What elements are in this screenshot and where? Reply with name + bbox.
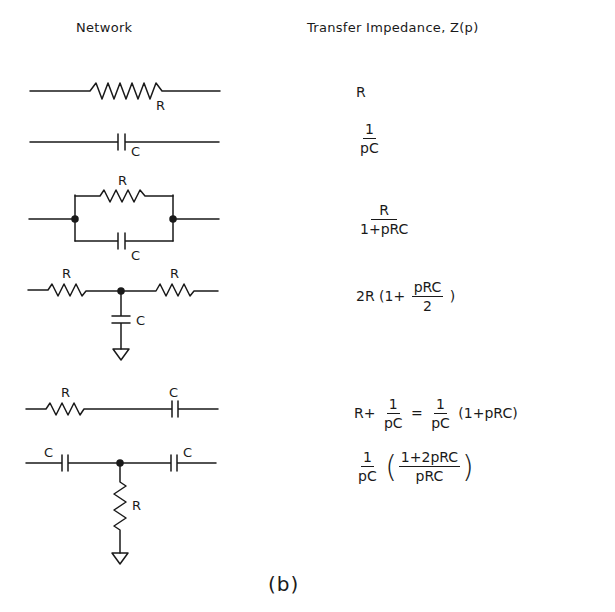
impedance-row-4: 2R (1+ pRC 2 ) bbox=[356, 280, 455, 313]
impedance-text: R bbox=[356, 84, 366, 100]
network-row-2-capacitor: C bbox=[30, 134, 219, 159]
resistor-label: R bbox=[132, 498, 141, 513]
denominator: pC bbox=[358, 139, 381, 155]
resistor-label: R bbox=[156, 98, 165, 113]
denominator: 1+pRC bbox=[358, 220, 410, 236]
denominator: pC bbox=[356, 467, 379, 483]
fraction: pRC 2 bbox=[412, 280, 444, 313]
network-row-3-parallel-rc: R C bbox=[29, 173, 219, 263]
network-diagrams: R C R C R R C R C C C R bbox=[0, 0, 615, 612]
numerator: pRC bbox=[412, 280, 444, 297]
capacitor-label-left: C bbox=[44, 445, 53, 460]
fraction-1: 1 pC bbox=[382, 397, 405, 430]
numerator: 1+2pRC bbox=[399, 450, 460, 467]
fraction-2: 1+2pRC pRC bbox=[399, 450, 460, 483]
denominator: pC bbox=[382, 414, 405, 430]
numerator: 1 bbox=[361, 450, 374, 467]
numerator: 1 bbox=[387, 397, 400, 414]
network-row-1-resistor: R bbox=[30, 83, 220, 113]
impedance-row-5: R+ 1 pC = 1 pC (1+pRC) bbox=[354, 397, 518, 430]
resistor-label: R bbox=[118, 173, 127, 188]
fraction: 1 pC bbox=[358, 122, 381, 155]
network-row-4-rcr-tee: R R C bbox=[28, 266, 218, 360]
capacitor-label: C bbox=[136, 313, 145, 328]
numerator: R bbox=[371, 203, 397, 220]
open-paren: ( bbox=[385, 449, 397, 484]
expression-suffix: ) bbox=[450, 288, 455, 304]
impedance-row-6: 1 pC ( 1+2pRC pRC ) bbox=[354, 450, 474, 483]
numerator: 1 bbox=[434, 397, 447, 414]
expression-suffix: (1+pRC) bbox=[458, 405, 517, 421]
expression-prefix: 2R (1+ bbox=[356, 288, 405, 304]
impedance-row-3: R 1+pRC bbox=[356, 203, 412, 236]
figure-caption: (b) bbox=[268, 572, 299, 596]
denominator: pRC bbox=[414, 467, 446, 483]
impedance-row-1: R bbox=[356, 85, 366, 99]
equals-sign: = bbox=[411, 405, 423, 421]
resistor-label-right: R bbox=[170, 266, 179, 281]
denominator: pC bbox=[429, 414, 452, 430]
network-row-5-series-rc: R C bbox=[26, 385, 218, 417]
expression-prefix: R+ bbox=[354, 405, 375, 421]
denominator: 2 bbox=[421, 297, 434, 313]
impedance-row-2: 1 pC bbox=[356, 122, 383, 155]
resistor-label: R bbox=[61, 385, 70, 400]
capacitor-label: C bbox=[131, 144, 140, 159]
numerator: 1 bbox=[363, 122, 376, 139]
capacitor-label-right: C bbox=[183, 445, 192, 460]
capacitor-label: C bbox=[169, 385, 178, 400]
close-paren: ) bbox=[462, 449, 474, 484]
fraction: R 1+pRC bbox=[358, 203, 410, 236]
resistor-label-left: R bbox=[62, 266, 71, 281]
fraction-1: 1 pC bbox=[356, 450, 379, 483]
network-row-6-crc-tee: C C R bbox=[26, 445, 216, 564]
fraction-2: 1 pC bbox=[429, 397, 452, 430]
capacitor-label: C bbox=[131, 248, 140, 263]
